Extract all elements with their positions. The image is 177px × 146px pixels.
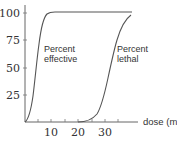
x-label-20: 20	[71, 126, 85, 139]
lethal-label-line1: Percent	[117, 44, 149, 54]
x-label-10: 10	[44, 126, 58, 139]
y-label-100: 100	[0, 7, 20, 20]
dose-response-chart: 100 75 50 25 10 20 30 dose (mg) Percent …	[0, 0, 177, 146]
percent-effective-curve	[25, 12, 132, 122]
y-label-25: 25	[6, 89, 20, 102]
percent-lethal-curve	[78, 15, 131, 122]
y-label-50: 50	[6, 62, 20, 75]
lethal-label-line2: lethal	[117, 54, 139, 64]
x-tick-labels: 10 20 30	[44, 126, 112, 139]
y-tick-labels: 100 75 50 25	[0, 7, 20, 102]
x-axis-title: dose (mg)	[143, 116, 177, 127]
x-label-30: 30	[98, 126, 112, 139]
y-label-75: 75	[6, 34, 20, 47]
effective-label-line1: Percent	[44, 44, 76, 54]
effective-label-line2: effective	[44, 54, 77, 64]
curve-labels: Percent effective Percent lethal	[44, 44, 149, 64]
